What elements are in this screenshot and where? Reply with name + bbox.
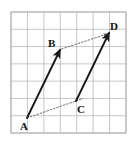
point-label-a: A <box>20 120 28 132</box>
point-label-c: C <box>77 103 85 115</box>
point-label-d: D <box>110 20 118 32</box>
vector-figure: A B C D <box>0 0 135 145</box>
point-label-b: B <box>48 37 56 49</box>
vector-diagram-canvas: A B C D <box>0 0 135 145</box>
